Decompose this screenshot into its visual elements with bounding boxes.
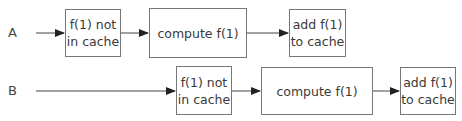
box-b-add-to-cache: add f(1) to cache (400, 67, 456, 115)
row-label-b: B (8, 83, 17, 98)
box-a-add-to-cache: add f(1) to cache (289, 9, 346, 57)
box-b-not-in-cache: f(1) not in cache (176, 66, 232, 115)
box-a-not-in-cache: f(1) not in cache (65, 9, 121, 57)
row-label-a: A (8, 25, 17, 40)
box-b-compute: compute f(1) (261, 67, 373, 115)
box-a-compute: compute f(1) (149, 8, 247, 58)
